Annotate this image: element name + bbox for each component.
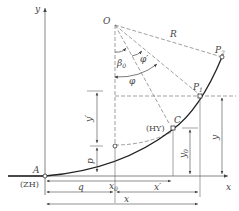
label-p1: P1 bbox=[192, 82, 203, 93]
label-p: p bbox=[85, 158, 95, 164]
label-c: C bbox=[174, 115, 181, 125]
label-phi: φ bbox=[129, 76, 136, 86]
label-zh: (ZH) bbox=[20, 180, 39, 189]
point-c bbox=[171, 126, 175, 130]
shifted-circle-dashed bbox=[115, 132, 172, 145]
label-q: q bbox=[78, 182, 84, 192]
label-p2: P2 bbox=[214, 45, 225, 56]
point-a bbox=[43, 174, 47, 178]
label-y-prime: y′ bbox=[84, 115, 94, 123]
label-phi-prime: φ′ bbox=[140, 54, 148, 64]
transition-curve-diagram: y x O R P2 P1 β0 φ′ φ C (HY) A (ZH) y′ p… bbox=[0, 0, 239, 211]
label-y: y bbox=[210, 134, 220, 141]
radius-line-p2 bbox=[115, 25, 222, 57]
label-y0: y0 bbox=[178, 149, 189, 159]
radius-line-c bbox=[115, 25, 170, 125]
label-x0: x0 bbox=[109, 181, 118, 192]
label-beta0: β0 bbox=[116, 58, 126, 69]
label-a: A bbox=[32, 165, 40, 175]
x-axis-label: x bbox=[226, 182, 231, 192]
label-x-prime: x′ bbox=[154, 182, 161, 192]
point-p1 bbox=[198, 94, 202, 98]
radius-line-p1 bbox=[115, 25, 200, 95]
label-o: O bbox=[103, 16, 111, 26]
beta0-arc bbox=[115, 48, 126, 52]
y-axis-label: y bbox=[34, 4, 41, 14]
point-shift bbox=[113, 144, 117, 148]
label-hy: (HY) bbox=[146, 124, 165, 133]
label-r: R bbox=[169, 29, 177, 39]
label-x: x bbox=[124, 194, 129, 204]
